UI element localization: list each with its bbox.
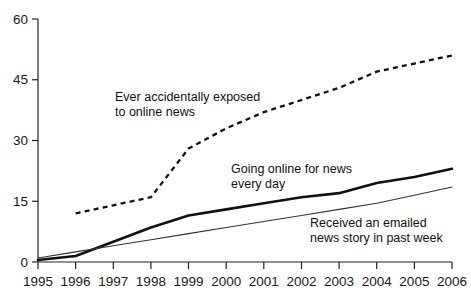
annotation-line-1: Received an emailed <box>310 216 443 231</box>
y-tick-label-30: 30 <box>2 133 28 148</box>
annotation-received-emailed-story: Received an emailed news story in past w… <box>310 216 443 246</box>
y-tick-label-45: 45 <box>2 72 28 87</box>
annotation-going-online-daily: Going online for news every day <box>231 162 352 192</box>
y-tick-label-60: 60 <box>2 12 28 27</box>
annotation-line-2: every day <box>231 177 352 192</box>
x-tick-label-2006: 2006 <box>426 274 471 289</box>
y-axis-ticks <box>32 19 38 262</box>
annotation-line-1: Ever accidentally exposed <box>115 90 260 105</box>
y-tick-label-15: 15 <box>2 194 28 209</box>
annotation-line-1: Going online for news <box>231 162 352 177</box>
y-tick-label-0: 0 <box>2 255 28 270</box>
annotation-ever-accidentally-exposed: Ever accidentally exposed to online news <box>115 90 260 120</box>
x-axis-ticks <box>38 262 452 269</box>
annotation-line-2: to online news <box>115 105 260 120</box>
annotation-line-2: news story in past week <box>310 231 443 246</box>
